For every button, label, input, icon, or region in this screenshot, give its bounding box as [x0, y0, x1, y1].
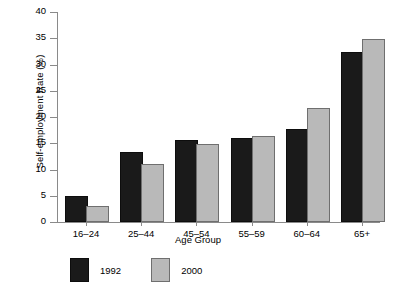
y-tick-15: 15	[50, 143, 57, 144]
bar-group	[65, 12, 107, 222]
y-tick-20: 20	[50, 117, 57, 118]
x-tick	[141, 222, 142, 226]
x-tick	[362, 222, 363, 226]
y-tick-label: 35	[35, 31, 46, 42]
y-axis-line	[57, 12, 58, 223]
bar-2000-55–59	[252, 136, 275, 222]
bar-group	[341, 12, 383, 222]
y-tick-10: 10	[50, 170, 57, 171]
bar-1992-25–44	[120, 152, 143, 222]
x-axis-line	[57, 222, 380, 223]
x-tick	[86, 222, 87, 226]
x-tick	[196, 222, 197, 226]
bar-group	[175, 12, 217, 222]
bar-group	[120, 12, 162, 222]
bar-2000-25–44	[141, 164, 164, 222]
x-axis-title: Age Group	[0, 234, 396, 245]
legend-swatch-2000	[151, 258, 170, 282]
y-tick-5: 5	[50, 196, 57, 197]
y-tick-40: 40	[50, 12, 57, 13]
legend-item-2000: 2000	[151, 258, 202, 282]
bar-1992-16–24	[65, 196, 88, 222]
y-tick-label: 25	[35, 84, 46, 95]
chart-legend: 19922000	[70, 258, 202, 282]
bar-group	[231, 12, 273, 222]
plot-area: 0510152025303540 16–2425–4445–5455–5960–…	[57, 12, 380, 222]
bar-2000-60–64	[307, 108, 330, 222]
bar-2000-16–24	[86, 206, 109, 222]
bar-2000-45–54	[196, 144, 219, 222]
y-tick-label: 40	[35, 5, 46, 16]
y-tick-label: 0	[41, 215, 46, 226]
self-employment-rate-bar-chart: Self-employment Rate (%) 051015202530354…	[0, 0, 396, 293]
y-tick-label: 10	[35, 163, 46, 174]
y-tick-label: 30	[35, 58, 46, 69]
y-tick-35: 35	[50, 38, 57, 39]
legend-swatch-1992	[70, 258, 89, 282]
y-tick-label: 20	[35, 110, 46, 121]
bar-1992-55–59	[231, 138, 254, 222]
y-tick-label: 15	[35, 136, 46, 147]
bar-1992-45–54	[175, 140, 198, 222]
bar-1992-60–64	[286, 129, 309, 222]
y-tick-label: 5	[41, 189, 46, 200]
legend-item-1992: 1992	[70, 258, 121, 282]
x-tick	[307, 222, 308, 226]
legend-label: 1992	[100, 265, 121, 276]
bar-1992-65+	[341, 52, 364, 222]
bar-group	[286, 12, 328, 222]
y-tick-30: 30	[50, 65, 57, 66]
y-tick-0: 0	[50, 222, 57, 223]
x-tick	[252, 222, 253, 226]
y-tick-25: 25	[50, 91, 57, 92]
bar-2000-65+	[362, 39, 385, 222]
legend-label: 2000	[181, 265, 202, 276]
